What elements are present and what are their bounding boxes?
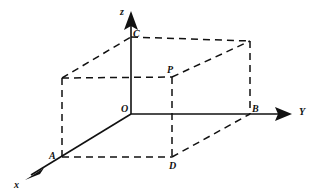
point-label-P: P xyxy=(167,65,173,75)
point-label-B: B xyxy=(252,104,259,114)
axes-group xyxy=(31,22,283,175)
axis-line-x xyxy=(31,114,131,175)
geometry-drawing xyxy=(0,0,319,195)
edge-P-to-back-top-right xyxy=(172,41,250,77)
edge-D-to-B xyxy=(172,114,250,157)
axis-label-x: x xyxy=(14,180,19,190)
edge-back-top-left-to-P xyxy=(62,77,172,78)
point-label-A: A xyxy=(49,151,56,161)
point-label-O: O xyxy=(121,104,128,114)
figure-canvas: z Y x O C B A D P xyxy=(0,0,319,195)
x-axis-arrow-icon xyxy=(25,168,44,180)
edge-C-to-back-top-right xyxy=(131,37,250,41)
edge-back-top-left-to-C xyxy=(62,37,131,78)
point-label-C: C xyxy=(133,29,140,39)
point-label-D: D xyxy=(169,161,176,171)
axis-label-y: Y xyxy=(299,107,305,117)
axis-label-z: z xyxy=(120,7,124,17)
